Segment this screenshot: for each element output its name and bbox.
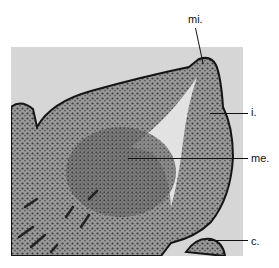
label-mi: mi. xyxy=(188,14,203,25)
leader-line-c xyxy=(208,240,248,241)
label-i: i. xyxy=(251,107,257,118)
label-me: me. xyxy=(251,153,269,164)
tissue-section-drawing xyxy=(11,47,243,256)
leader-line-me xyxy=(128,158,248,159)
label-c: c. xyxy=(251,236,260,247)
figure: mi. i. me. c. xyxy=(0,0,279,268)
micrograph-photo xyxy=(11,47,243,256)
leader-line-i xyxy=(210,113,248,114)
